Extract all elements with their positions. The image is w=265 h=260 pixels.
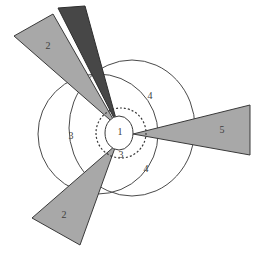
label-lower-ellipse-region: 4: [144, 163, 149, 174]
label-right-wedge: 5: [220, 124, 225, 135]
venn-wedge-diagram: 1 2 2 3 3 4 4 5: [0, 0, 265, 260]
label-left-circle-region: 3: [69, 130, 74, 141]
label-dotted-ring-region: 3: [119, 149, 124, 160]
label-lower-left-wedge: 2: [62, 209, 67, 220]
label-center-region: 1: [118, 126, 123, 137]
label-upper-ellipse-region: 4: [148, 90, 153, 101]
label-upper-left-wedge: 2: [46, 40, 51, 51]
diagram-canvas: 1 2 2 3 3 4 4 5: [0, 0, 265, 260]
